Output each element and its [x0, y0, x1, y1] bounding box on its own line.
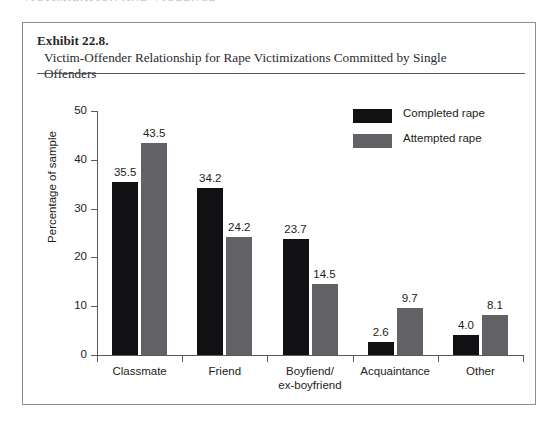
category-label-line: ex-boyfriend: [261, 379, 358, 393]
y-axis-tick-label: 50: [59, 104, 87, 116]
bar-completed: [112, 182, 138, 355]
legend-swatch-attempted: [353, 134, 392, 148]
running-head: VICTIMIZATION AND VIOLENCE: [22, 0, 502, 1]
y-axis-title: Percentage of sample: [46, 112, 58, 262]
x-axis-tick: [97, 356, 98, 362]
bar-attempted: [312, 284, 338, 355]
bar-value-label: 9.7: [391, 292, 429, 304]
x-axis-tick: [353, 356, 354, 362]
bar-value-label: 24.2: [220, 221, 258, 233]
bar-value-label: 4.0: [447, 319, 485, 331]
legend-label: Attempted rape: [403, 132, 482, 144]
y-axis-tick-label: 10: [59, 299, 87, 311]
bar-completed: [197, 188, 223, 355]
bar-value-label: 23.7: [277, 223, 315, 235]
bar-value-label: 2.6: [362, 326, 400, 338]
x-axis-line: [97, 355, 524, 356]
y-axis-tick-label: 20: [59, 250, 87, 262]
x-axis-category-label: Boyfiend/ex-boyfriend: [261, 365, 358, 392]
y-axis-tick-label: 30: [59, 202, 87, 214]
bar-completed: [283, 239, 309, 355]
x-axis-category-label: Other: [432, 365, 529, 379]
bar-attempted: [141, 143, 167, 355]
x-axis-tick: [523, 356, 524, 362]
y-axis-tick-label: 40: [59, 153, 87, 165]
category-label-line: Other: [432, 365, 529, 379]
category-label-line: Friend: [176, 365, 273, 379]
x-axis-category-label: Friend: [176, 365, 273, 379]
bar-value-label: 34.2: [191, 172, 229, 184]
bar-chart: Percentage of sample 01020304050 Classma…: [23, 23, 537, 406]
category-label-line: Boyfiend/: [261, 365, 358, 379]
bar-value-label: 14.5: [306, 268, 344, 280]
legend-label: Completed rape: [403, 107, 485, 119]
x-axis-tick: [182, 356, 183, 362]
x-axis-tick: [438, 356, 439, 362]
bar-completed: [368, 342, 394, 355]
legend-swatch-completed: [353, 109, 392, 123]
category-label-line: Classmate: [91, 365, 188, 379]
x-axis-category-label: Acquaintance: [347, 365, 444, 379]
category-label-line: Acquaintance: [347, 365, 444, 379]
bar-value-label: 35.5: [106, 166, 144, 178]
bar-attempted: [226, 237, 252, 355]
bar-value-label: 43.5: [135, 127, 173, 139]
x-axis-tick: [267, 356, 268, 362]
bar-value-label: 8.1: [476, 299, 514, 311]
bar-completed: [453, 335, 479, 355]
exhibit-box: Exhibit 22.8.Victim-Offender Relationshi…: [22, 22, 536, 405]
bar-attempted: [482, 315, 508, 355]
bar-attempted: [397, 308, 423, 355]
x-axis-category-label: Classmate: [91, 365, 188, 379]
y-axis-tick-label: 0: [59, 348, 87, 360]
